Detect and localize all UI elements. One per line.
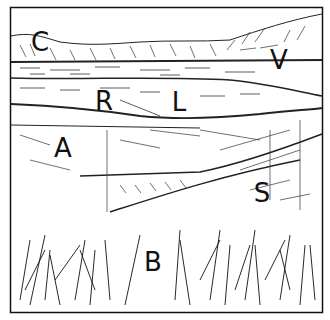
hill-hatching xyxy=(20,26,305,60)
label-r: R xyxy=(95,88,113,114)
foreground-grass xyxy=(20,230,315,305)
label-v: V xyxy=(270,47,288,73)
label-l: L xyxy=(172,89,187,115)
label-c: C xyxy=(31,29,49,55)
water-lines xyxy=(20,67,260,116)
label-s: S xyxy=(254,180,271,206)
label-a: A xyxy=(54,135,72,161)
label-b: B xyxy=(144,249,162,275)
